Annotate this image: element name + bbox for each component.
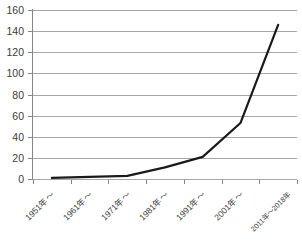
- y-axis-label-60: 60: [12, 111, 24, 121]
- y-axis-label-80: 80: [12, 90, 24, 100]
- y-tick-120: [28, 52, 32, 53]
- gridline-140: [33, 31, 297, 32]
- y-axis-label-160: 160: [6, 5, 24, 15]
- y-axis-label-140: 140: [6, 26, 24, 36]
- gridline-160: [33, 10, 297, 11]
- y-axis-line: [32, 9, 33, 180]
- y-tick-160: [28, 10, 32, 11]
- y-axis-label-120: 120: [6, 47, 24, 57]
- y-axis-label-0: 0: [18, 174, 24, 184]
- gridline-60: [33, 116, 297, 117]
- y-tick-40: [28, 137, 32, 138]
- gridline-0: [33, 179, 297, 180]
- gridline-40: [33, 137, 297, 138]
- x-tick-0: [33, 180, 34, 184]
- x-tick-1: [71, 180, 72, 184]
- x-tick-4: [184, 180, 185, 184]
- x-tick-3: [146, 180, 147, 184]
- plot-area: [33, 10, 297, 179]
- x-tick-6: [259, 180, 260, 184]
- gridline-120: [33, 52, 297, 53]
- y-tick-140: [28, 31, 32, 32]
- x-tick-7: [297, 180, 298, 184]
- y-axis-labels: 160 140 120 100 80 60 40 20 0: [0, 0, 26, 241]
- gridline-80: [33, 95, 297, 96]
- x-tick-5: [222, 180, 223, 184]
- y-tick-20: [28, 158, 32, 159]
- x-tick-2: [108, 180, 109, 184]
- y-axis-label-20: 20: [12, 153, 24, 163]
- line-chart: 160 140 120 100 80 60 40 20 0 1951年〜 196…: [0, 0, 302, 241]
- gridline-100: [33, 73, 297, 74]
- y-tick-80: [28, 95, 32, 96]
- y-tick-60: [28, 116, 32, 117]
- y-tick-100: [28, 73, 32, 74]
- y-tick-0: [28, 179, 32, 180]
- gridline-20: [33, 158, 297, 159]
- y-axis-label-100: 100: [6, 68, 24, 78]
- y-axis-label-40: 40: [12, 132, 24, 142]
